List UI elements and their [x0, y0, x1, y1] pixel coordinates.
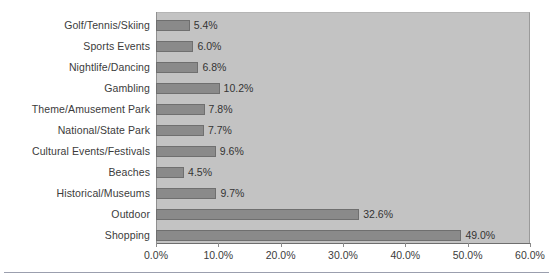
bar — [156, 83, 220, 94]
bar — [156, 62, 198, 73]
category-label: Cultural Events/Festivals — [0, 146, 150, 157]
category-label: Gambling — [0, 83, 150, 94]
bar — [156, 104, 205, 115]
x-axis-tick-label: 10.0% — [188, 249, 248, 261]
x-axis-tick-label: 30.0% — [313, 249, 373, 261]
x-axis-tick — [343, 243, 344, 247]
bar-value-label: 4.5% — [188, 167, 212, 178]
bar-value-label: 6.0% — [197, 41, 221, 52]
category-label: Nightlife/Dancing — [0, 62, 150, 73]
bar-value-label: 7.8% — [209, 104, 233, 115]
bar-value-label: 10.2% — [224, 83, 254, 94]
bar — [156, 146, 216, 157]
bar-value-label: 32.6% — [363, 209, 393, 220]
x-axis-tick — [281, 243, 282, 247]
bar-chart: Golf/Tennis/SkiingSports EventsNightlife… — [0, 0, 553, 279]
bar — [156, 41, 193, 52]
category-label: Golf/Tennis/Skiing — [0, 20, 150, 31]
x-axis-tick — [156, 243, 157, 247]
bar — [156, 20, 190, 31]
bar — [156, 167, 184, 178]
category-label: Sports Events — [0, 41, 150, 52]
bar — [156, 188, 216, 199]
x-axis-tick-label: 0.0% — [126, 249, 186, 261]
x-axis-tick — [405, 243, 406, 247]
category-axis: Golf/Tennis/SkiingSports EventsNightlife… — [0, 12, 150, 243]
bar-value-label: 7.7% — [208, 125, 232, 136]
page-divider-rule — [4, 272, 549, 273]
bar — [156, 209, 359, 220]
x-axis-tick — [218, 243, 219, 247]
x-axis-tick — [468, 243, 469, 247]
bar — [156, 230, 461, 241]
bar-value-label: 49.0% — [465, 230, 495, 241]
bar-value-label: 6.8% — [202, 62, 226, 73]
x-axis-tick-label: 40.0% — [375, 249, 435, 261]
bar-value-label: 5.4% — [194, 20, 218, 31]
category-label: Outdoor — [0, 209, 150, 220]
bar-value-label: 9.6% — [220, 146, 244, 157]
bar — [156, 125, 204, 136]
category-label: Historical/Museums — [0, 188, 150, 199]
category-label: Beaches — [0, 167, 150, 178]
x-axis-tick-label: 50.0% — [438, 249, 498, 261]
category-label: Theme/Amusement Park — [0, 104, 150, 115]
x-axis-tick-label: 60.0% — [500, 249, 553, 261]
bar-value-label: 9.7% — [220, 188, 244, 199]
category-label: Shopping — [0, 230, 150, 241]
category-label: National/State Park — [0, 125, 150, 136]
x-axis-tick-label: 20.0% — [251, 249, 311, 261]
x-axis-tick — [530, 243, 531, 247]
